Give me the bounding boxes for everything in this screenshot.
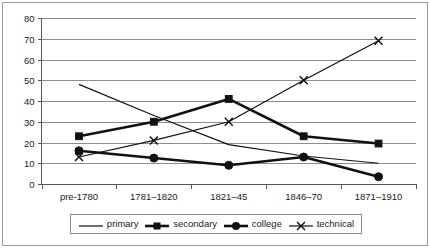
legend-label-college: college — [252, 219, 282, 229]
legend-label-primary: primary — [107, 219, 139, 229]
line-square-swatch-icon — [144, 218, 170, 230]
data-point-secondary — [76, 133, 83, 140]
legend-item-primary: primary — [78, 218, 139, 230]
line-chart-figure: 01020304050607080 pre-17801781–18201821–… — [0, 0, 430, 248]
legend-label-secondary: secondary — [173, 219, 217, 229]
legend-item-technical: technical — [288, 218, 355, 230]
data-point-secondary — [225, 96, 232, 103]
y-tick-label: 30 — [24, 117, 35, 128]
y-axis-tick-labels: 01020304050607080 — [24, 13, 35, 190]
x-tick-label: 1821–45 — [210, 191, 247, 202]
y-tick-label: 10 — [24, 158, 35, 169]
x-tick-label: 1846–70 — [285, 191, 322, 202]
data-point-secondary — [150, 118, 157, 125]
y-tick-label: 70 — [24, 34, 35, 45]
data-point-technical — [225, 118, 233, 126]
data-point-college — [375, 173, 383, 181]
x-tick-label: pre-1780 — [60, 191, 98, 202]
y-tick-label: 60 — [24, 55, 35, 66]
line-swatch-icon — [78, 218, 104, 230]
y-tick-label: 50 — [24, 75, 35, 86]
legend-item-secondary: secondary — [144, 218, 217, 230]
y-tick-label: 0 — [29, 179, 34, 190]
chart-legend: primary secondary college — [70, 214, 362, 234]
line-cross-swatch-icon — [288, 218, 314, 230]
legend-item-college: college — [223, 218, 282, 230]
data-point-college — [300, 153, 308, 161]
data-point-technical — [375, 37, 383, 45]
x-axis-tick-labels: pre-17801781–18201821–451846–701871–1910 — [60, 191, 402, 202]
x-tick-label: 1781–1820 — [130, 191, 178, 202]
data-point-college — [225, 161, 233, 169]
data-series-layer — [75, 37, 383, 181]
data-point-secondary — [375, 140, 382, 147]
legend-label-technical: technical — [317, 219, 355, 229]
line-circle-swatch-icon — [223, 218, 249, 230]
x-tick-label: 1871–1910 — [355, 191, 403, 202]
y-tick-label: 20 — [24, 138, 35, 149]
chart-plot-area: 01020304050607080 pre-17801781–18201821–… — [0, 0, 430, 248]
y-tick-label: 80 — [24, 13, 35, 24]
data-point-secondary — [300, 133, 307, 140]
y-tick-label: 40 — [24, 96, 35, 107]
data-point-college — [150, 154, 158, 162]
